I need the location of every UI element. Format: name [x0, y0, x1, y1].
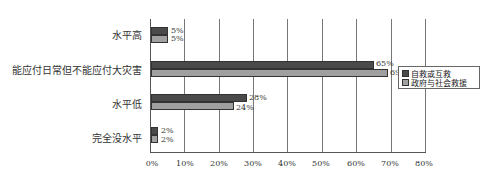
x-tick: 40% — [278, 159, 296, 168]
x-axis — [150, 152, 426, 153]
legend: 自救或互救 政府与社会救援 — [398, 66, 480, 89]
legend-item-series2: 政府与社会救援 — [402, 77, 467, 88]
x-tick: 70% — [381, 159, 399, 168]
gridline — [356, 19, 357, 153]
value-label: 65% — [376, 59, 394, 68]
x-tick: 0% — [146, 159, 159, 168]
x-tick: 10% — [176, 159, 194, 168]
bar-series2 — [151, 69, 388, 77]
legend-swatch — [402, 79, 409, 86]
x-tick: 20% — [210, 159, 228, 168]
gridline — [219, 19, 220, 153]
legend-label: 政府与社会救援 — [411, 77, 467, 88]
bar-series1 — [151, 27, 168, 35]
x-tick: 30% — [244, 159, 262, 168]
value-label: 2% — [161, 126, 174, 135]
category-label: 完全没水平 — [92, 130, 142, 145]
bar-series1 — [151, 94, 247, 102]
category-label: 水平高 — [112, 27, 142, 42]
value-label: 2% — [161, 135, 174, 144]
x-tick: 80% — [415, 159, 433, 168]
x-tick: 50% — [312, 159, 330, 168]
value-label: 24% — [236, 103, 254, 112]
gridline — [253, 19, 254, 153]
plot-area: 5% 5% 65% 69% 28% 24% 2% 2% — [150, 19, 425, 153]
legend-swatch — [402, 70, 409, 77]
gridline — [287, 19, 288, 153]
value-label: 28% — [249, 93, 267, 102]
bar-series2 — [151, 35, 168, 43]
bar-series1 — [151, 61, 374, 69]
category-label: 水平低 — [112, 96, 142, 111]
gridline — [322, 19, 323, 153]
bar-series1 — [151, 127, 158, 135]
bar-series2 — [151, 102, 234, 110]
gridline — [391, 19, 392, 153]
bar-series2 — [151, 135, 158, 143]
value-label: 5% — [171, 34, 184, 43]
bar-chart: 水平高 能应付日常但不能应付大灾害 水平低 完全没水平 5% 5% 65% 69… — [0, 0, 492, 185]
x-tick: 60% — [347, 159, 365, 168]
gridline — [184, 19, 185, 153]
category-label: 能应付日常但不能应付大灾害 — [12, 62, 142, 77]
